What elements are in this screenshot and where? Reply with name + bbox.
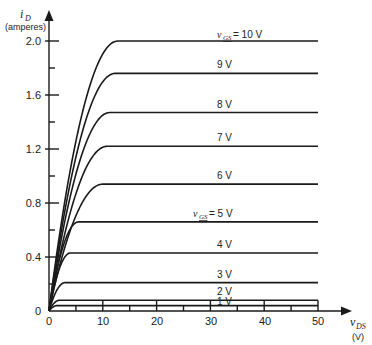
curve-5v bbox=[49, 222, 318, 311]
curve-10v bbox=[49, 41, 318, 311]
y-tick-label-0.4: 0.4 bbox=[26, 251, 41, 263]
y-axis-arrow-icon bbox=[45, 10, 54, 21]
curve-label-6v: 6 V bbox=[217, 170, 232, 181]
y-axis-unit: (amperes) bbox=[5, 22, 46, 32]
curve-label-1v: 1 V bbox=[217, 296, 232, 307]
curve-label-3v: 3 V bbox=[217, 269, 232, 280]
x-tick-label-10: 10 bbox=[97, 315, 109, 327]
svg-text:v: v bbox=[193, 208, 198, 219]
curves-group bbox=[49, 41, 318, 311]
y-tick-label-2.0: 2.0 bbox=[26, 35, 41, 47]
svg-text:GS: GS bbox=[223, 34, 232, 42]
x-tick-label-20: 20 bbox=[151, 315, 163, 327]
y-tick-label-0: 0 bbox=[35, 305, 41, 317]
curve-label-4v: 4 V bbox=[217, 239, 232, 250]
curve-label-8v: 8 V bbox=[217, 99, 232, 110]
mosfet-output-characteristics-chart: i D (amperes) 2.0 1.6 1.2 0.8 0.4 0 0 10… bbox=[0, 0, 372, 345]
curve-7v bbox=[49, 146, 318, 311]
y-tick-label-1.2: 1.2 bbox=[26, 143, 41, 155]
svg-text:= 10 V: = 10 V bbox=[233, 29, 263, 40]
x-tick-label-30: 30 bbox=[205, 315, 217, 327]
svg-text:= 5 V: = 5 V bbox=[209, 208, 233, 219]
curve-label-9v: 9 V bbox=[217, 59, 232, 70]
y-tick-label-0.8: 0.8 bbox=[26, 197, 41, 209]
curve-label-5v: v GS = 5 V bbox=[193, 208, 233, 221]
curve-8v bbox=[49, 113, 318, 311]
svg-text:v: v bbox=[217, 29, 222, 40]
svg-text:GS: GS bbox=[199, 213, 208, 221]
x-axis-unit: (V) bbox=[352, 332, 364, 342]
y-axis-symbol: i bbox=[20, 7, 23, 21]
y-tick-label-1.6: 1.6 bbox=[26, 89, 41, 101]
x-tick-label-50: 50 bbox=[312, 315, 324, 327]
curve-label-7v: 7 V bbox=[217, 132, 232, 143]
x-tick-label-0: 0 bbox=[46, 315, 52, 327]
x-axis-subscript: DS bbox=[355, 322, 366, 331]
curve-label-10v: v GS = 10 V bbox=[217, 29, 263, 42]
x-tick-label-40: 40 bbox=[259, 315, 271, 327]
curve-6v bbox=[49, 184, 318, 311]
